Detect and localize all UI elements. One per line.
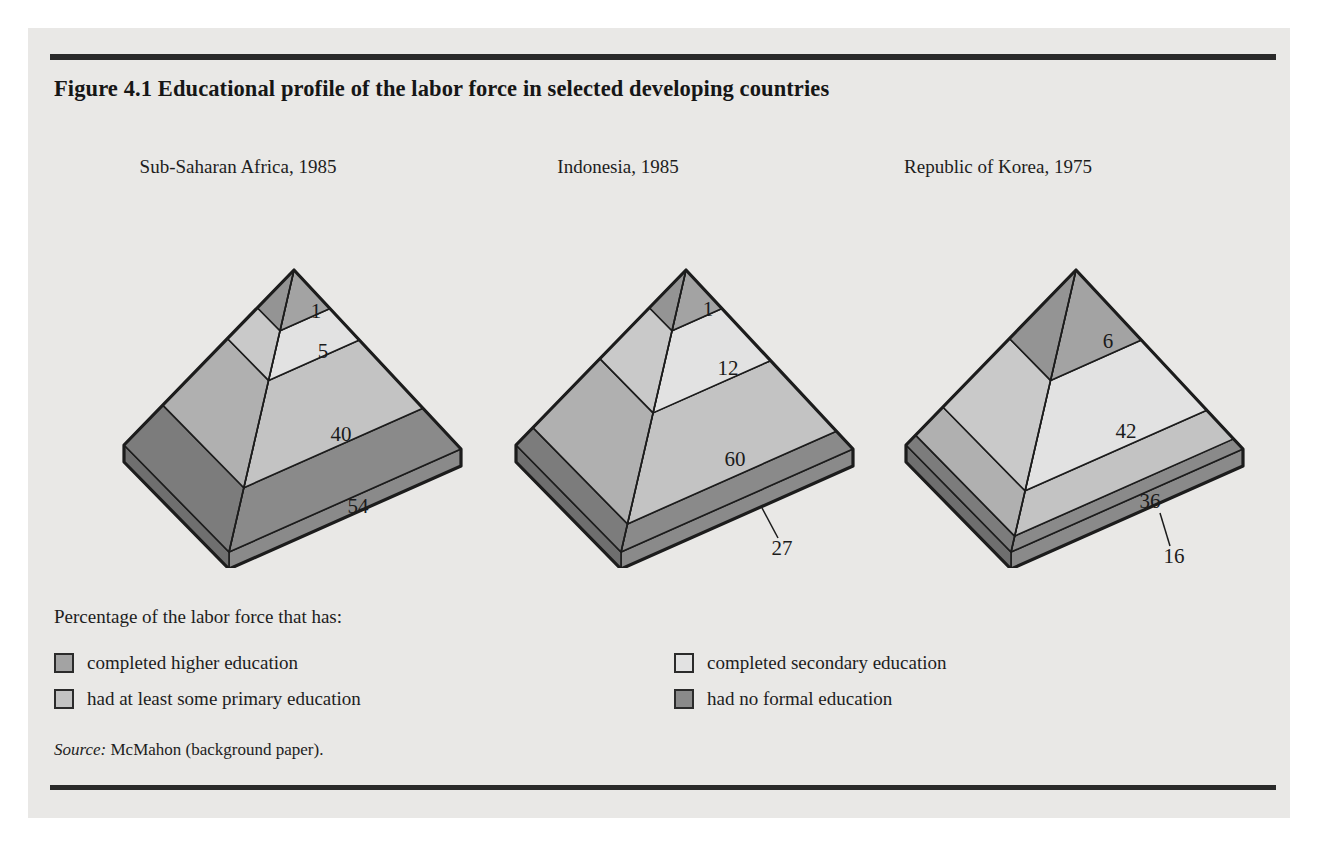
bottom-rule <box>50 785 1276 790</box>
pyramid-0-value-none: 54 <box>348 494 370 518</box>
legend-label-primary-education: had at least some primary education <box>87 688 361 710</box>
figure-title: Figure 4.1 Educational profile of the la… <box>54 76 829 102</box>
pyramid-1-value-none: 27 <box>772 536 793 560</box>
source-text: McMahon (background paper). <box>111 740 324 759</box>
legend-swatch-primary-education <box>54 689 74 709</box>
pyramid-2-value-none: 16 <box>1164 544 1185 568</box>
legend-label-higher-education: completed higher education <box>87 652 298 674</box>
legend-swatch-no-formal-education <box>674 689 694 709</box>
pyramid-2-value-higher: 6 <box>1103 329 1114 353</box>
legend-label-secondary-education: completed secondary education <box>707 652 947 674</box>
legend-item-secondary-education: completed secondary education <box>674 652 947 674</box>
top-rule <box>50 54 1276 60</box>
pyramid-title-sub-saharan-africa: Sub-Saharan Africa, 1985 <box>68 156 408 178</box>
pyramid-chart-group: 154054 1126027 6423616 <box>28 208 1290 568</box>
pyramid-0-value-higher: 1 <box>311 299 322 323</box>
pyramid-indonesia: 1126027 <box>460 208 860 568</box>
legend-item-primary-education: had at least some primary education <box>54 688 361 710</box>
legend-swatch-secondary-education <box>674 653 694 673</box>
pyramid-title-republic-of-korea: Republic of Korea, 1975 <box>828 156 1168 178</box>
legend-intro: Percentage of the labor force that has: <box>54 606 342 628</box>
pyramid-0-value-primary: 40 <box>331 422 352 446</box>
pyramid-sub-saharan-africa: 154054 <box>68 208 468 568</box>
figure-panel: Figure 4.1 Educational profile of the la… <box>28 28 1290 818</box>
source-label: Source: <box>54 740 106 759</box>
figure-root: Figure 4.1 Educational profile of the la… <box>0 0 1324 864</box>
pyramid-0-value-secondary: 5 <box>318 339 329 363</box>
pyramid-1-value-higher: 1 <box>703 297 714 321</box>
legend-item-no-formal-education: had no formal education <box>674 688 892 710</box>
legend-swatch-higher-education <box>54 653 74 673</box>
legend-item-higher-education: completed higher education <box>54 652 298 674</box>
pyramid-headers: Sub-Saharan Africa, 1985 Indonesia, 1985… <box>28 156 1290 184</box>
pyramid-1-value-primary: 60 <box>725 447 746 471</box>
pyramid-2-value-secondary: 42 <box>1116 419 1137 443</box>
pyramid-2-value-primary: 36 <box>1140 489 1161 513</box>
legend-label-no-formal-education: had no formal education <box>707 688 892 710</box>
source-line: Source: McMahon (background paper). <box>54 740 323 760</box>
pyramid-title-indonesia: Indonesia, 1985 <box>468 156 768 178</box>
pyramid-1-value-secondary: 12 <box>718 356 739 380</box>
pyramid-republic-of-korea: 6423616 <box>850 208 1250 568</box>
